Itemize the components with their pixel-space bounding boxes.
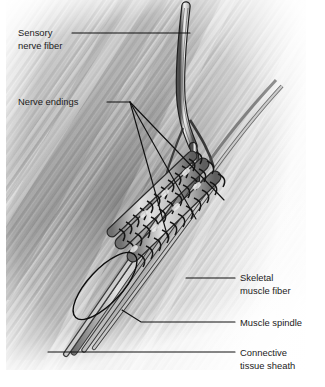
- muscle-spindle-figure: Sensory nerve fiber Nerve endings Skelet…: [0, 0, 325, 387]
- label-connective-tissue-sheath: Connective tissue sheath: [240, 347, 295, 371]
- label-muscle-spindle: Muscle spindle: [240, 317, 302, 328]
- label-line-1: Skeletal: [240, 272, 273, 283]
- illustration-canvas: Sensory nerve fiber Nerve endings Skelet…: [0, 0, 325, 387]
- label-line-2: tissue sheath: [240, 360, 295, 371]
- label-line-1: Muscle spindle: [240, 317, 302, 328]
- label-line-1: Connective: [240, 347, 287, 358]
- label-line-1: Sensory: [18, 27, 53, 38]
- label-line-2: nerve fiber: [18, 40, 62, 51]
- label-line-2: muscle fiber: [240, 285, 291, 296]
- label-line-1: Nerve endings: [18, 96, 79, 107]
- label-nerve-endings: Nerve endings: [18, 96, 79, 107]
